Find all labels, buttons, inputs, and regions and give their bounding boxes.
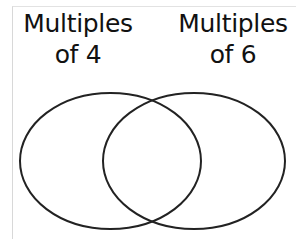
venn-diagram [0, 0, 296, 239]
set-ellipse-multiples-of-6 [103, 93, 285, 229]
set-ellipse-multiples-of-4 [20, 93, 201, 229]
